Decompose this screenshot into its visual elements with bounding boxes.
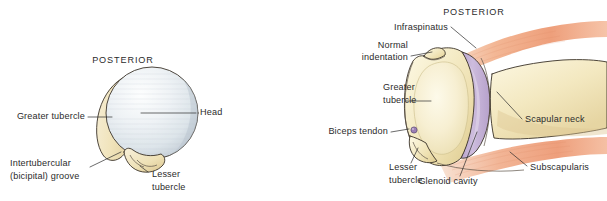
label-greater-tubercle-right-line1: Greater (383, 82, 415, 92)
label-scapular-neck: Scapular neck (525, 114, 585, 124)
label-biceps-tendon: Biceps tendon (328, 126, 388, 136)
left-panel-humeral-head: POSTERIOR Greater tubercle Head Intertub… (10, 55, 222, 192)
label-infraspinatus: Infraspinatus (394, 22, 448, 32)
label-posterior-right: POSTERIOR (443, 7, 505, 17)
biceps-tendon-dot (411, 127, 417, 133)
label-lesser-tubercle-right-line1: Lesser (389, 162, 417, 172)
label-head: Head (200, 107, 222, 117)
label-subscapularis: Subscapularis (530, 162, 589, 172)
right-panel-glenohumeral-joint: POSTERIOR Infraspinatus Normal indentati… (328, 7, 607, 186)
anatomy-illustration-svg: POSTERIOR Greater tubercle Head Intertub… (0, 0, 607, 201)
label-lesser-tubercle-left-line1: Lesser (152, 169, 180, 179)
label-intertubercular-groove-line1: Intertubercular (10, 158, 71, 168)
anatomy-figure: POSTERIOR Greater tubercle Head Intertub… (0, 0, 607, 201)
label-intertubercular-groove-line2: (bicipital) groove (10, 171, 79, 181)
label-greater-tubercle-left: Greater tubercle (17, 111, 85, 121)
biceps-tendon-highlight (412, 128, 414, 130)
label-lesser-tubercle-left-line2: tubercle (152, 182, 186, 192)
label-posterior-left: POSTERIOR (92, 55, 154, 65)
leader-biceps-tendon (391, 129, 409, 132)
label-glenoid-cavity: Glenoid cavity (418, 176, 478, 186)
leader-infraspinatus (451, 27, 476, 48)
label-normal-indentation-line2: indentation (362, 52, 408, 62)
label-greater-tubercle-right-line2: tubercle (383, 95, 417, 105)
label-normal-indentation-line1: Normal (378, 40, 408, 50)
